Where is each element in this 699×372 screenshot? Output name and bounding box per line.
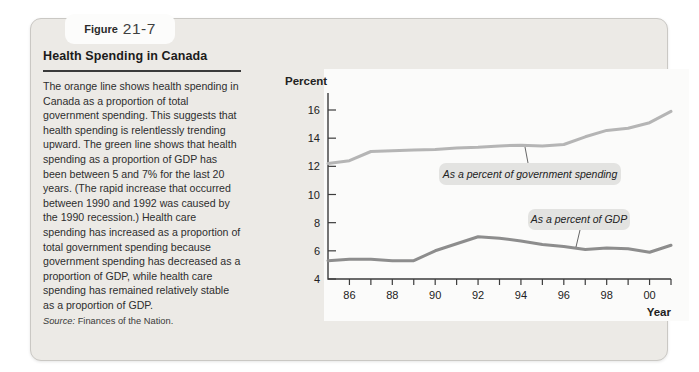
y-tick-label: 14 bbox=[308, 132, 320, 144]
y-axis-title: Percent bbox=[285, 75, 327, 87]
source-note: Source: Finances of the Nation. bbox=[43, 316, 241, 326]
y-tick-label: 16 bbox=[308, 104, 320, 116]
y-tick-label: 12 bbox=[308, 160, 320, 172]
annotation-callout-gdp bbox=[576, 230, 580, 247]
page: Figure 21-7 Health Spending in Canada Th… bbox=[0, 0, 699, 372]
figure-description: The orange line shows health spending in… bbox=[43, 79, 241, 313]
source-text: Finances of the Nation. bbox=[78, 316, 174, 326]
x-tick-label: 98 bbox=[601, 289, 613, 301]
annotation-label-government_spending: As a percent of government spending bbox=[442, 168, 618, 180]
x-tick-label: 96 bbox=[558, 289, 570, 301]
source-prefix: Source: bbox=[43, 316, 75, 326]
y-tick-label: 8 bbox=[314, 217, 320, 229]
y-tick-label: 6 bbox=[314, 245, 320, 257]
x-axis-title: Year bbox=[647, 306, 672, 318]
chart-axes bbox=[328, 93, 671, 279]
x-tick-label: 86 bbox=[343, 289, 355, 301]
x-tick-label: 92 bbox=[472, 289, 484, 301]
figure-label: Figure bbox=[84, 23, 118, 35]
x-tick-label: 88 bbox=[386, 289, 398, 301]
health-spending-line-chart: 468101214168688909294969800PercentYearAs… bbox=[271, 63, 698, 334]
series-gdp-line bbox=[328, 237, 671, 261]
figure-tab: Figure 21-7 bbox=[65, 14, 175, 44]
annotation-label-gdp: As a percent of GDP bbox=[530, 213, 627, 225]
annotation-callout-government_spending bbox=[525, 147, 528, 163]
figure-card: Figure 21-7 Health Spending in Canada Th… bbox=[30, 18, 668, 361]
x-tick-label: 94 bbox=[515, 289, 527, 301]
y-tick-label: 4 bbox=[314, 273, 320, 285]
series-government_spending-line bbox=[328, 111, 671, 163]
figure-title: Health Spending in Canada bbox=[43, 49, 241, 72]
x-tick-label: 00 bbox=[643, 289, 655, 301]
x-tick-label: 90 bbox=[429, 289, 441, 301]
y-tick-label: 10 bbox=[308, 189, 320, 201]
description-panel: Health Spending in Canada The orange lin… bbox=[43, 49, 241, 326]
figure-number: 21-7 bbox=[123, 20, 156, 38]
